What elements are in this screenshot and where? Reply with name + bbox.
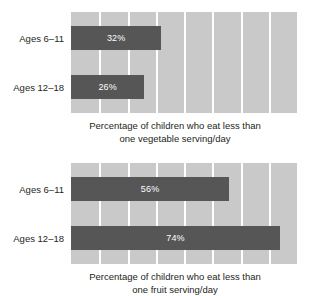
caption-vegetable: Percentage of children who eat less than… (60, 120, 290, 145)
category-label-ages-6-11: Ages 6–11 (0, 26, 70, 50)
plot-wrapper-fruit: 56%74% (71, 163, 297, 264)
caption-line-2: one vegetable serving/day (60, 133, 290, 146)
bar-series-vegetable: 32%26% (71, 12, 297, 113)
caption-line-1: Percentage of children who eat less than (60, 271, 290, 284)
plot-area-fruit: 56%74% (71, 163, 297, 264)
bar-value-label: 32% (71, 26, 161, 50)
caption-line-2: one fruit serving/day (60, 284, 290, 296)
bar-row: 26% (71, 75, 297, 99)
plot-wrapper-vegetable: 32%26% (71, 12, 297, 113)
caption-line-1: Percentage of children who eat less than (60, 120, 290, 133)
bar-row: 56% (71, 177, 297, 201)
bar-value-label: 74% (71, 226, 280, 250)
bar-row: 74% (71, 226, 297, 250)
caption-fruit: Percentage of children who eat less than… (60, 271, 290, 296)
category-label-ages-6-11: Ages 6–11 (0, 177, 70, 201)
bar-row: 32% (71, 26, 297, 50)
plot-area-vegetable: 32%26% (71, 12, 297, 113)
category-label-ages-12-18: Ages 12–18 (0, 75, 70, 99)
bar-value-label: 26% (71, 75, 144, 99)
category-label-ages-12-18: Ages 12–18 (0, 226, 70, 250)
bar-value-label: 56% (71, 177, 229, 201)
bar-series-fruit: 56%74% (71, 163, 297, 264)
